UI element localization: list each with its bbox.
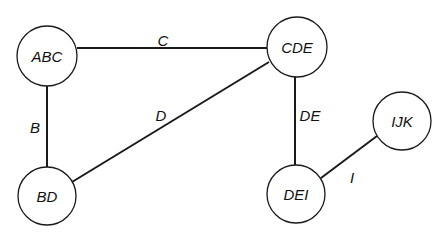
node-label: IJK [391,113,414,130]
edge-label: DE [300,107,322,124]
node-label: ABC [31,48,63,65]
edge-label: D [156,107,167,124]
node-ijk: IJK [373,92,431,150]
node-label: CDE [281,39,314,56]
node-dei: DEI [267,165,325,223]
node-cde: CDE [267,17,327,77]
graph-diagram: ABCCDEBDDEIIJK CBDDEI [0,0,445,242]
node-bd: BD [18,167,76,225]
edge-cde-bd [72,62,269,182]
node-abc: ABC [17,26,77,86]
node-label: DEI [283,186,308,203]
edge-label: C [158,32,169,49]
node-label: BD [37,188,58,205]
edge-label: B [30,119,40,136]
edges-group [47,48,377,182]
edge-label: I [350,169,354,186]
